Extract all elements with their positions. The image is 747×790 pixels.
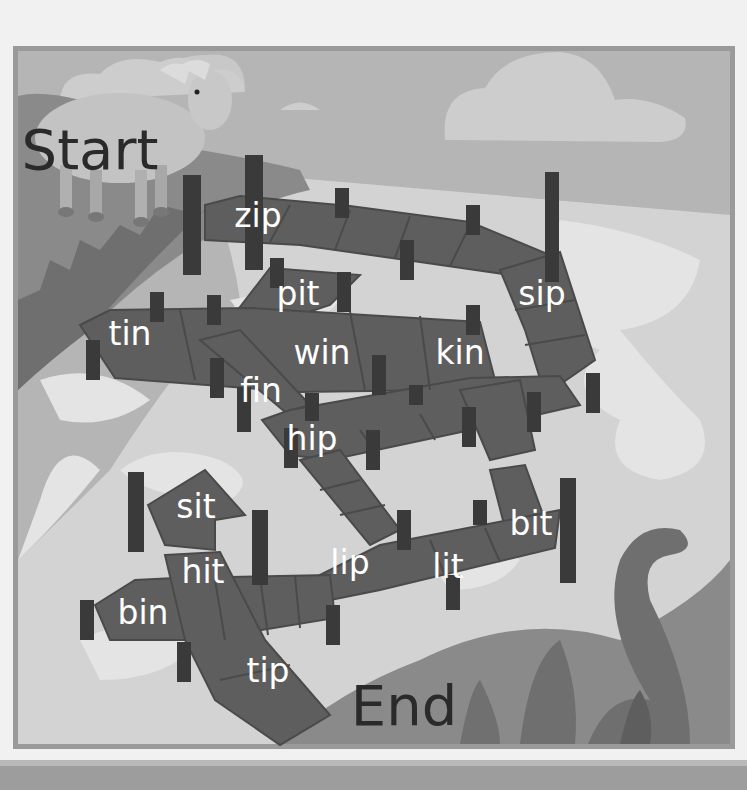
word-tip: tip (246, 654, 289, 687)
word-kin: kin (435, 336, 484, 369)
word-sip: sip (518, 277, 565, 310)
word-win: win (293, 336, 350, 369)
word-bin: bin (117, 596, 168, 629)
start-label: Start (22, 122, 159, 178)
word-hit: hit (181, 555, 224, 588)
word-lip: lip (330, 546, 369, 579)
word-hip: hip (286, 422, 337, 455)
word-zip: zip (234, 199, 281, 232)
end-label: End (351, 678, 457, 734)
bottom-bar (0, 760, 747, 790)
word-sit: sit (176, 490, 215, 523)
word-tin: tin (108, 317, 151, 350)
word-bit: bit (509, 507, 552, 540)
word-fin: fin (240, 374, 282, 407)
word-lit: lit (432, 550, 463, 583)
word-pit: pit (276, 277, 319, 310)
